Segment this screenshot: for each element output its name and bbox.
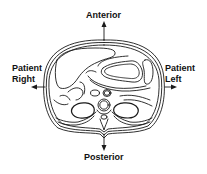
anterior-arrow-head <box>102 21 107 27</box>
spleen <box>143 60 153 85</box>
posterior-label: Posterior <box>84 152 124 162</box>
axial-cross-section-diagram <box>0 0 207 174</box>
patient-left-label-line2: Left <box>165 74 182 84</box>
kidneys <box>72 103 139 118</box>
ivc <box>91 90 100 96</box>
right-arrow-head <box>31 85 37 90</box>
vertebra <box>56 99 152 130</box>
left-arrow-head <box>171 85 177 90</box>
aorta-inner <box>104 91 110 96</box>
stomach <box>98 56 143 82</box>
patient-left-label-line1: Patient <box>165 63 195 73</box>
patient-right-label-line2: Right <box>12 74 35 84</box>
patient-right-label-line1: Patient <box>12 63 42 73</box>
left-kidney <box>114 103 139 118</box>
posterior-arrow-head <box>102 145 107 151</box>
anterior-label: Anterior <box>86 10 121 20</box>
